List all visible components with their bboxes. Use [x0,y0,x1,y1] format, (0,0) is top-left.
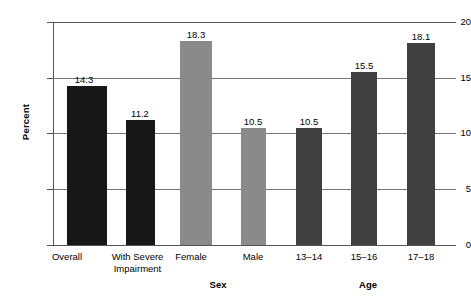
category-label-with-severe-impairment-line1: With Severe [112,251,164,262]
category-label-age-17-18: 17–18 [391,251,451,263]
y-axis-title: Percent [20,92,31,152]
category-label-age-15-16: 15–16 [334,251,394,263]
bar-with-severe-impairment [126,120,155,245]
category-label-age-13-14-line1: 13–14 [296,251,322,262]
bar-value-age-17-18: 18.1 [384,31,458,42]
category-label-female: Female [161,251,221,263]
bar-female [180,41,212,245]
group-label-sex: Sex [188,279,248,290]
bar-value-female: 18.3 [159,29,233,40]
bar-chart: Percent 20 15 10 5 0 14.3 11.2 18.3 10.5… [0,0,471,304]
bar-age-15-16 [351,72,377,245]
plot-area [53,22,456,245]
category-label-female-line1: Female [175,251,207,262]
bar-value-age-13-14: 10.5 [272,116,346,127]
category-label-male: Male [223,251,283,263]
group-label-age: Age [338,279,398,290]
bar-age-17-18 [407,43,435,245]
category-label-with-severe-impairment-line2: Impairment [114,263,162,274]
bar-value-age-15-16: 15.5 [327,60,401,71]
category-label-age-17-18-line1: 17–18 [408,251,434,262]
gridline-20 [53,22,456,23]
category-label-male-line1: Male [243,251,264,262]
category-label-age-15-16-line1: 15–16 [351,251,377,262]
category-label-overall-line1: Overall [52,251,82,262]
category-label-age-13-14: 13–14 [279,251,339,263]
x-axis-line [53,245,456,246]
bar-age-13-14 [296,128,322,245]
bar-value-with-severe-impairment: 11.2 [103,108,177,119]
bar-overall [67,86,107,245]
bar-male [241,128,266,245]
y-tick-mark-0 [47,245,53,246]
bar-value-overall: 14.3 [47,74,121,85]
category-label-overall: Overall [42,251,92,263]
